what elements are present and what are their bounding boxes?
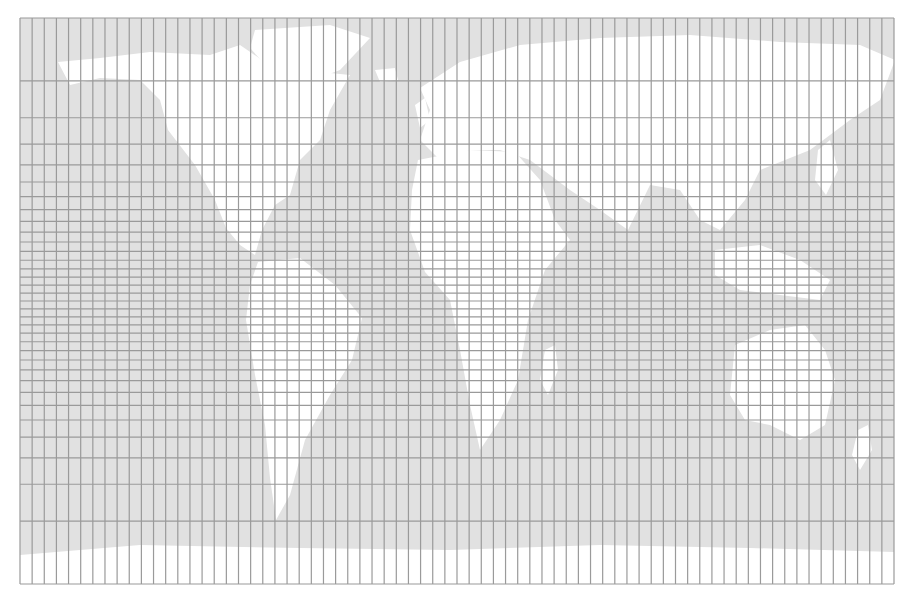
world-map (0, 0, 901, 598)
